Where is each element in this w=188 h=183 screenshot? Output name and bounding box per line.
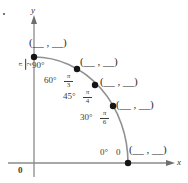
point-0deg (125, 160, 131, 166)
degree-label-90: 90° (32, 61, 45, 70)
y-axis-label: y (31, 6, 35, 15)
radian-label-pi-over-3: π 3 (64, 73, 73, 90)
radian-numerator: π (17, 59, 24, 70)
radian-label-pi-over-6: π 6 (100, 110, 109, 127)
radian-numerator: π (83, 89, 92, 96)
answer-blank-45deg[interactable]: (__ , __) (100, 76, 138, 87)
graph-canvas (0, 0, 188, 183)
answer-blank-90deg[interactable]: (__ , __) (29, 37, 67, 48)
answer-blank-0deg[interactable]: (__ , __) (129, 144, 167, 155)
radian-label-zero: 0 (116, 148, 121, 157)
quarter-circle-arc (34, 57, 128, 163)
radian-numerator: π (64, 73, 73, 80)
answer-blank-30deg[interactable]: (__ , __) (116, 99, 154, 110)
degree-label-60: 60° (44, 76, 57, 85)
degree-label-45: 45° (63, 92, 76, 101)
degree-label-0: 0° (100, 148, 108, 157)
radian-denominator: 4 (83, 98, 92, 105)
x-axis (8, 160, 175, 166)
answer-blank-60deg[interactable]: (__ , __) (80, 56, 118, 67)
origin-label: 0 (18, 166, 23, 175)
degree-label-30: 30° (80, 113, 93, 122)
radian-numerator: π (100, 110, 109, 117)
x-axis-label: x (177, 158, 181, 167)
radian-label-pi-over-4: π 4 (83, 89, 92, 106)
unit-circle-figure: y x 0 π 2 90° (__ , __) 60° π 3 (__ , __… (0, 0, 188, 183)
radian-denominator: 6 (100, 119, 109, 126)
radian-denominator: 3 (64, 82, 73, 89)
point-45deg (92, 82, 98, 88)
